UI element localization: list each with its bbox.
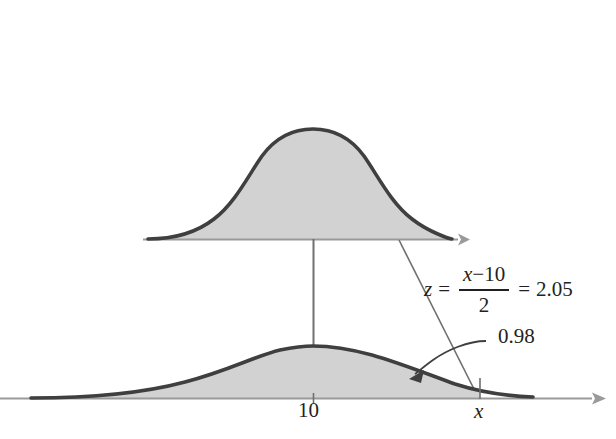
mean-tick-label: 10 — [298, 400, 319, 421]
formula-fraction: x−10 2 — [459, 262, 509, 318]
formula-denominator: 2 — [475, 291, 494, 318]
area-annotation-arrow — [415, 341, 486, 374]
formula-numerator-variable: x — [463, 262, 472, 286]
z-score-formula: z = x−10 2 = 2.05 — [424, 262, 573, 318]
formula-equals-second: = — [518, 277, 530, 302]
lower-curve-shaded-area — [31, 346, 480, 398]
x-tick-label: x — [474, 401, 483, 422]
upper-axis-arrowhead — [458, 234, 470, 246]
formula-equals-first: = — [438, 277, 450, 302]
formula-numerator: x−10 — [459, 262, 509, 289]
area-annotation-label: 0.98 — [498, 326, 535, 347]
upper-curve-shaded-area — [148, 129, 452, 239]
formula-result: 2.05 — [536, 277, 573, 302]
normal-distribution-figure: 10 x 0.98 z = x−10 2 = 2.05 — [0, 0, 616, 439]
formula-numerator-minus: − — [472, 262, 484, 286]
formula-z-symbol: z — [424, 277, 432, 302]
formula-numerator-mean: 10 — [484, 262, 505, 286]
distribution-diagram-canvas — [0, 0, 616, 439]
lower-axis-arrowhead — [592, 393, 606, 405]
